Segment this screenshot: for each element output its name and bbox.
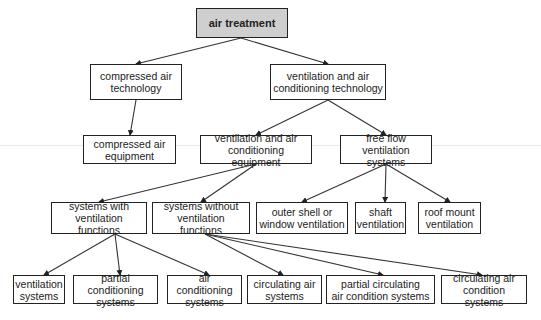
node-label: systems with ventilation functions — [54, 200, 144, 236]
node-label: partial conditioning systems — [76, 272, 155, 308]
edge-arrow — [205, 234, 482, 275]
edge-arrow — [115, 234, 209, 275]
edge-arrow — [44, 234, 115, 275]
node-label: compressed air equipment — [94, 138, 166, 162]
node-vac-equipment: ventilation and air conditioning equipme… — [200, 135, 312, 164]
node-label: shaft ventilation — [357, 206, 404, 230]
node-label: free flow ventilation systems — [343, 132, 429, 168]
node-vac-technology: ventilation and air conditioning technol… — [270, 64, 386, 100]
node-air-treatment: air treatment — [196, 8, 288, 38]
node-label: ventilation systems — [15, 278, 62, 302]
node-partial-circulating: partial circulating air condition system… — [326, 275, 435, 304]
node-partial-conditioning: partial conditioning systems — [73, 275, 158, 304]
node-shaft: shaft ventilation — [355, 202, 406, 234]
node-roof-mount: roof mount ventilation — [418, 202, 481, 234]
edge-arrow — [205, 234, 383, 275]
node-air-conditioning: air conditioning systems — [167, 275, 242, 304]
node-label: compressed air technology — [100, 70, 172, 94]
node-outer-shell: outer shell or window ventilation — [256, 202, 348, 234]
node-without-vent: systems without ventilation functions — [152, 202, 250, 234]
edge-arrow — [99, 164, 256, 202]
node-label: air treatment — [209, 17, 276, 29]
edge-arrow — [256, 100, 328, 135]
node-with-vent: systems with ventilation functions — [51, 202, 147, 234]
node-label: air conditioning systems — [170, 272, 239, 308]
edge-arrow — [115, 234, 120, 275]
node-compressed-air-equipment: compressed air equipment — [83, 135, 176, 164]
edge-arrow — [386, 164, 450, 202]
node-label: roof mount ventilation — [424, 206, 474, 230]
node-label: partial circulating air condition system… — [331, 278, 429, 302]
node-compressed-air-technology: compressed air technology — [90, 64, 182, 100]
edge-arrow — [302, 164, 386, 202]
node-label: circulating air systems — [254, 278, 316, 302]
edge-arrow — [385, 164, 386, 202]
node-circulating-air-condition: circulating air condition systems — [441, 275, 527, 304]
node-label: circulating air condition systems — [444, 272, 524, 308]
node-label: ventilation and air conditioning technol… — [273, 70, 383, 94]
node-label: outer shell or window ventilation — [259, 206, 344, 230]
node-ventilation-systems: ventilation systems — [13, 275, 65, 304]
node-label: systems without ventilation functions — [155, 200, 247, 236]
edge-arrow — [241, 38, 328, 64]
edge-arrow — [136, 38, 241, 64]
diagram-canvas: air treatmentcompressed air technologyve… — [0, 0, 541, 320]
edge-arrow — [328, 100, 386, 135]
edge-arrow — [130, 100, 136, 135]
node-circulating-air: circulating air systems — [247, 275, 322, 304]
node-free-flow: free flow ventilation systems — [340, 135, 432, 164]
node-label: ventilation and air conditioning equipme… — [203, 132, 309, 168]
edge-arrow — [201, 164, 256, 202]
